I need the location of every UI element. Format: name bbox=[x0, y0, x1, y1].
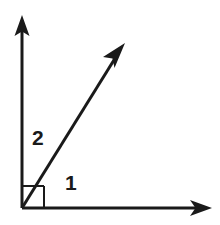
vertical-ray bbox=[15, 15, 30, 208]
figure-canvas bbox=[0, 0, 220, 225]
diagonal-ray-arrowhead bbox=[103, 43, 125, 68]
geometry-figure: 2 1 bbox=[0, 0, 220, 225]
horizontal-ray bbox=[22, 200, 212, 216]
angle-label-2: 2 bbox=[32, 127, 44, 148]
angle-label-1: 1 bbox=[65, 172, 77, 193]
